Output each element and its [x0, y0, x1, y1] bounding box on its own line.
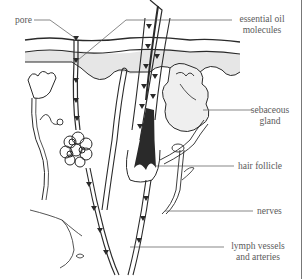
label-sebaceous-gland: sebaceous gland — [250, 105, 290, 126]
skin-illustration — [0, 0, 304, 279]
label-lymph-vessels-and-arteries: lymph vessels and arteries — [226, 241, 290, 262]
label-pore: pore — [15, 15, 32, 26]
label-nerves: nerves — [257, 206, 282, 217]
label-sebaceous-line1: sebaceous — [250, 105, 290, 116]
label-lymph-line2: and arteries — [226, 252, 290, 263]
label-essential-oil-molecules: essential oil molecules — [234, 14, 290, 35]
label-essential-oil-line1: essential oil — [234, 14, 290, 25]
label-essential-oil-line2: molecules — [234, 25, 290, 36]
skin-diagram: pore essential oil molecules sebaceous g… — [0, 0, 304, 279]
label-hair-follicle: hair follicle — [238, 161, 282, 172]
label-lymph-line1: lymph vessels — [226, 241, 290, 252]
right-border-line — [301, 0, 302, 279]
label-sebaceous-line2: gland — [250, 116, 290, 127]
